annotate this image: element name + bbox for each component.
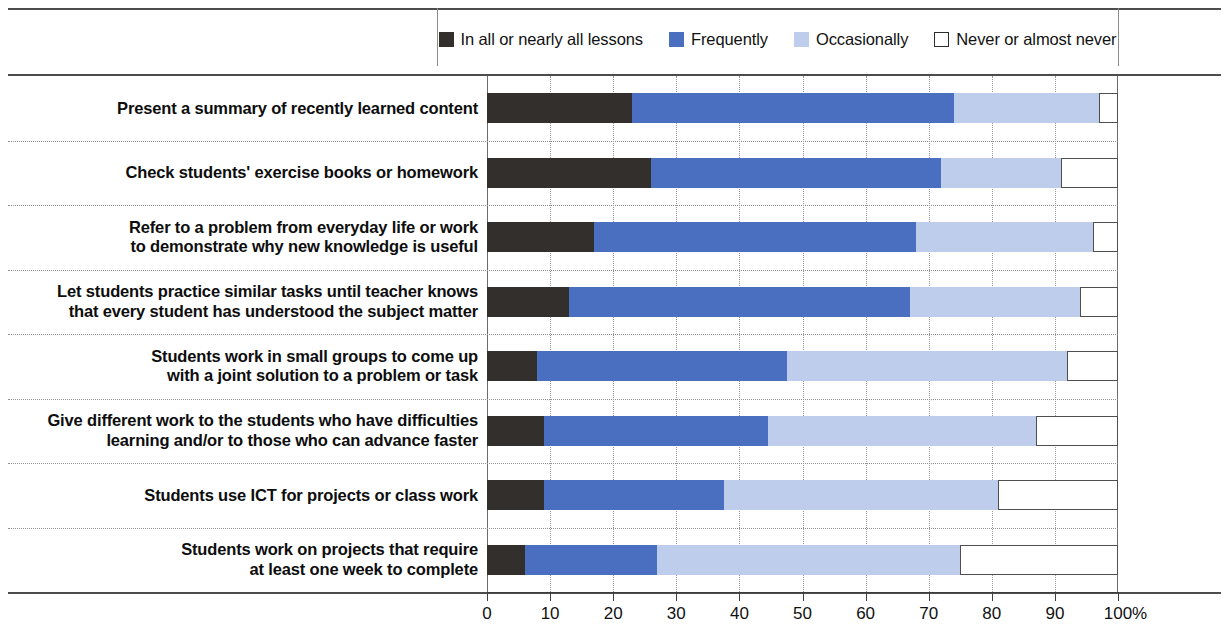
axis-tick-label: 10 (541, 604, 560, 624)
row-label-line: at least one week to complete (8, 560, 478, 579)
stacked-bar (487, 416, 1118, 446)
axis-tick (1118, 592, 1119, 601)
row-label-line: Refer to a problem from everyday life or… (8, 218, 478, 237)
legend-item: Occasionally (794, 30, 908, 49)
chart-row: Check students' exercise books or homewo… (0, 141, 1229, 206)
chart-row: Students use ICT for projects or class w… (0, 463, 1229, 528)
legend-item: Never or almost never (934, 30, 1116, 49)
row-label: Present a summary of recently learned co… (8, 99, 478, 118)
top-divider-rule (8, 8, 1221, 10)
legend-label: Occasionally (816, 30, 908, 49)
row-label-line: learning and/or to those who can advance… (8, 431, 478, 450)
chart-row: Students work on projects that requireat… (0, 528, 1229, 593)
legend-divider-right (1118, 8, 1119, 66)
x-axis: % 0102030405060708090100 (487, 592, 1118, 636)
axis-tick-label: 60 (856, 604, 875, 624)
bar-segment (487, 158, 651, 188)
axis-tick (1055, 592, 1056, 601)
bar-segment (1061, 158, 1118, 188)
axis-tick-label: 40 (730, 604, 749, 624)
axis-tick (676, 592, 677, 601)
bar-segment (632, 93, 954, 123)
axis-tick-label: 50 (793, 604, 812, 624)
bar-segment (910, 287, 1080, 317)
bar-segment (487, 416, 544, 446)
legend-label: Never or almost never (956, 30, 1116, 49)
bar-segment (1093, 222, 1118, 252)
chart-row: Refer to a problem from everyday life or… (0, 205, 1229, 270)
row-label: Students work in small groups to come up… (8, 347, 478, 386)
stacked-bar (487, 351, 1118, 381)
axis-tick-label: 0 (482, 604, 491, 624)
stacked-bar (487, 287, 1118, 317)
axis-tick (487, 592, 488, 601)
bar-segment (1067, 351, 1117, 381)
legend-swatch-icon (794, 32, 809, 47)
row-label-line: Present a summary of recently learned co… (8, 99, 478, 118)
bar-segment (941, 158, 1061, 188)
stacked-bar (487, 93, 1118, 123)
bar-segment (954, 93, 1099, 123)
row-label-line: Students use ICT for projects or class w… (8, 486, 478, 505)
bar-segment (1080, 287, 1118, 317)
legend-label: In all or nearly all lessons (461, 30, 643, 49)
bar-segment (487, 351, 537, 381)
stacked-bar (487, 158, 1118, 188)
bar-segment (998, 480, 1118, 510)
axis-tick (803, 592, 804, 601)
row-label: Give different work to the students who … (8, 411, 478, 450)
bar-segment (537, 351, 786, 381)
chart-row: Let students practice similar tasks unti… (0, 270, 1229, 335)
bar-segment (768, 416, 1036, 446)
legend-label: Frequently (691, 30, 768, 49)
bar-segment (916, 222, 1093, 252)
legend-item: In all or nearly all lessons (439, 30, 643, 49)
x-axis-unit: % (1132, 604, 1147, 624)
chart-rows: Present a summary of recently learned co… (0, 76, 1229, 592)
legend-item: Frequently (669, 30, 768, 49)
bar-segment (487, 93, 632, 123)
axis-tick (992, 592, 993, 601)
legend-swatch-icon (669, 32, 684, 47)
stacked-bar (487, 222, 1118, 252)
row-label: Check students' exercise books or homewo… (8, 163, 478, 182)
row-label-line: Let students practice similar tasks unti… (8, 282, 478, 301)
chart-legend: In all or nearly all lessonsFrequentlyOc… (437, 26, 1118, 52)
stacked-bar (487, 480, 1118, 510)
axis-tick (550, 592, 551, 601)
row-label: Students work on projects that requireat… (8, 540, 478, 579)
chart-row: Students work in small groups to come up… (0, 334, 1229, 399)
chart-row: Give different work to the students who … (0, 399, 1229, 464)
axis-tick-label: 30 (667, 604, 686, 624)
row-label-line: Students work in small groups to come up (8, 347, 478, 366)
row-label-line: that every student has understood the su… (8, 302, 478, 321)
bar-segment (487, 222, 594, 252)
legend-swatch-icon (934, 32, 949, 47)
axis-tick-label: 100 (1104, 604, 1132, 624)
axis-tick (739, 592, 740, 601)
bar-segment (787, 351, 1068, 381)
axis-tick-label: 20 (604, 604, 623, 624)
bar-segment (657, 545, 960, 575)
bar-segment (544, 480, 724, 510)
row-label-line: with a joint solution to a problem or ta… (8, 366, 478, 385)
bar-segment (651, 158, 941, 188)
chart-row: Present a summary of recently learned co… (0, 76, 1229, 141)
axis-tick (866, 592, 867, 601)
bar-segment (1099, 93, 1118, 123)
bar-segment (487, 545, 525, 575)
bar-segment (487, 287, 569, 317)
bar-segment (544, 416, 768, 446)
row-label: Students use ICT for projects or class w… (8, 486, 478, 505)
bar-segment (1036, 416, 1118, 446)
bar-segment (724, 480, 998, 510)
bar-segment (960, 545, 1118, 575)
axis-tick (929, 592, 930, 601)
axis-tick-label: 70 (919, 604, 938, 624)
bar-segment (525, 545, 658, 575)
bar-segment (487, 480, 544, 510)
row-label-line: Give different work to the students who … (8, 411, 478, 430)
row-label-line: Students work on projects that require (8, 540, 478, 559)
row-label-line: to demonstrate why new knowledge is usef… (8, 237, 478, 256)
stacked-bar (487, 545, 1118, 575)
